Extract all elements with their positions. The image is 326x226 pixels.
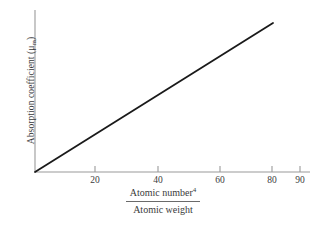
x-axis-fraction-numerator: Atomic number4	[126, 186, 201, 202]
x-tick-label-80: 80	[260, 175, 284, 185]
x-tick-label-20: 20	[83, 175, 107, 185]
plot-area: Absorption coefficient (μm) 20 40 60 80 …	[0, 0, 326, 226]
x-axis-numerator-exponent: 4	[193, 186, 197, 194]
y-axis-title-close: )	[26, 37, 36, 40]
x-axis-numerator-text: Atomic number	[130, 187, 193, 198]
x-axis-fraction-denominator: Atomic weight	[126, 202, 201, 217]
x-axis-title: Atomic number4 Atomic weight	[0, 186, 326, 216]
x-tick-label-60: 60	[208, 175, 232, 185]
y-axis-title-subscript: m	[30, 40, 38, 46]
x-tick-label-40: 40	[146, 175, 170, 185]
chart-figure: Absorption coefficient (μm) 20 40 60 80 …	[0, 0, 326, 226]
y-axis-title: Absorption coefficient (μm)	[26, 10, 39, 170]
x-tick-label-90: 90	[288, 175, 312, 185]
x-axis-fraction: Atomic number4 Atomic weight	[126, 186, 201, 216]
data-line-absorption	[35, 23, 273, 172]
y-axis-title-text: Absorption coefficient (μ	[26, 46, 36, 145]
